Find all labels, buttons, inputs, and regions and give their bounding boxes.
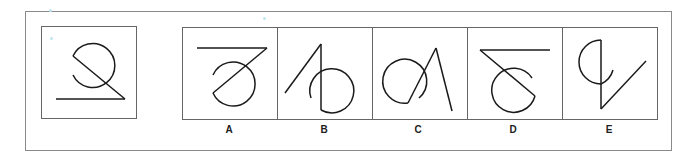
speck [263, 17, 266, 20]
option-c-label: C [371, 124, 465, 135]
option-d-shape-icon [468, 28, 563, 121]
option-a-shape-icon [183, 28, 278, 121]
option-b-label: B [277, 124, 371, 135]
option-c-shape-icon [373, 28, 468, 121]
option-c[interactable] [373, 28, 468, 119]
option-d[interactable] [468, 28, 563, 119]
question-shape-icon [42, 27, 138, 120]
option-e[interactable] [563, 28, 657, 119]
question-figure [41, 26, 137, 119]
speck [49, 9, 52, 12]
option-e-shape-icon [563, 28, 658, 121]
option-d-label: D [466, 124, 560, 135]
option-a-label: A [182, 124, 276, 135]
option-b-shape-icon [278, 28, 373, 121]
options-strip [182, 27, 658, 120]
option-e-label: E [562, 124, 656, 135]
option-b[interactable] [278, 28, 373, 119]
option-a[interactable] [183, 28, 278, 119]
